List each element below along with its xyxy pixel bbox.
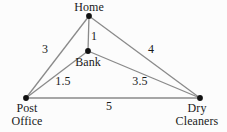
node-label-dry-cleaners: Dry Cleaners: [167, 102, 227, 127]
edge-weight-post-office-dry-cleaners: 5: [99, 100, 119, 112]
node-label-home: Home: [62, 1, 116, 14]
node-dot-bank: [85, 48, 91, 54]
edge-weight-home-dry-cleaners: 4: [142, 43, 160, 55]
node-label-dry-cleaners-line1: Dry: [167, 102, 227, 115]
node-label-dry-cleaners-line2: Cleaners: [167, 115, 227, 128]
edge-weight-home-bank: 1: [87, 30, 101, 42]
node-label-post-office-line1: Post: [2, 102, 52, 115]
edge-weight-bank-dry-cleaners: 3.5: [126, 75, 154, 87]
node-label-bank: Bank: [61, 56, 115, 69]
weighted-graph-diagram: Home Bank Post Office Dry Cleaners 3 1 4…: [0, 0, 227, 132]
node-label-home-text: Home: [74, 0, 104, 14]
node-label-post-office-line2: Office: [2, 115, 52, 128]
edge-weight-home-post: 3: [36, 43, 54, 55]
node-label-post-office: Post Office: [2, 102, 52, 127]
edge-weight-bank-post-office: 1.5: [49, 75, 77, 87]
node-label-bank-text: Bank: [75, 55, 101, 69]
